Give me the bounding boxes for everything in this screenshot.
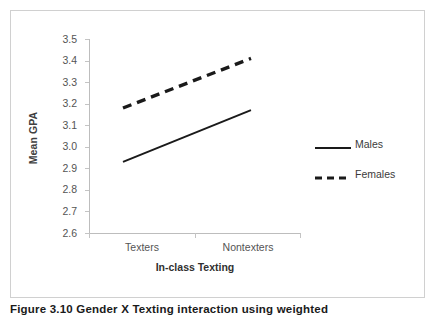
y-tick-label: 3.2 — [41, 97, 77, 110]
y-tick-label: 2.9 — [41, 162, 77, 175]
x-tick-label-nontexters: Nontexters — [195, 241, 301, 253]
legend-entry-females[interactable]: Females — [314, 159, 424, 189]
chart-frame: Mean GPA 3.53.43.33.23.13.02.92.82.72.6 … — [10, 10, 425, 298]
plot-area — [89, 39, 301, 233]
series-line-males — [123, 110, 251, 162]
x-axis-tick-labels: TextersNontexters — [89, 241, 301, 257]
y-tick-label: 2.8 — [41, 183, 77, 196]
y-tick-mark — [85, 61, 89, 62]
chart-legend: MalesFemales — [314, 129, 424, 189]
y-tick-mark — [85, 147, 89, 148]
y-tick-label: 3.1 — [41, 119, 77, 132]
y-tick-label: 3.4 — [41, 54, 77, 67]
x-tick-mark — [300, 233, 301, 238]
figure-root: Mean GPA 3.53.43.33.23.13.02.92.82.72.6 … — [0, 0, 437, 317]
y-axis-title-text: Mean GPA — [27, 112, 39, 165]
y-tick-mark — [85, 125, 89, 126]
series-line-females — [123, 58, 251, 108]
y-tick-mark — [85, 82, 89, 83]
y-axis-tick-labels: 3.53.43.33.23.13.02.92.82.72.6 — [41, 32, 77, 240]
y-tick-mark — [85, 211, 89, 212]
legend-swatch-females — [314, 169, 352, 179]
y-tick-mark — [85, 190, 89, 191]
y-tick-label: 2.6 — [41, 227, 77, 240]
x-tick-mark — [195, 233, 196, 238]
y-tick-label: 3.5 — [41, 33, 77, 46]
x-tick-label-texters: Texters — [89, 241, 195, 253]
y-tick-label: 3.0 — [41, 140, 77, 153]
legend-swatch-males — [314, 139, 352, 149]
y-tick-mark — [85, 104, 89, 105]
y-tick-mark — [85, 168, 89, 169]
legend-label-males: Males — [352, 138, 383, 150]
legend-entry-males[interactable]: Males — [314, 129, 424, 159]
data-series-group — [89, 39, 301, 233]
y-tick-label: 3.3 — [41, 76, 77, 89]
y-axis-title: Mean GPA — [23, 83, 43, 193]
y-tick-mark — [85, 39, 89, 40]
y-tick-label: 2.7 — [41, 205, 77, 218]
x-tick-mark — [89, 233, 90, 238]
legend-label-females: Females — [352, 168, 395, 180]
x-axis-title: In-class Texting — [89, 261, 301, 273]
figure-caption: Figure 3.10 Gender X Texting interaction… — [10, 303, 430, 317]
